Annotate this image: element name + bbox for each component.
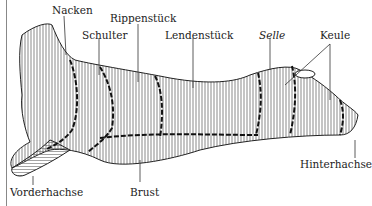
label-keule: Keule [320, 29, 350, 41]
label-selle: Selle [259, 29, 285, 41]
label-rippenstueck: Rippenstück [110, 12, 176, 24]
label-lendenstueck: Lendenstück [165, 29, 233, 41]
label-hinterhachse: Hinterhachse [300, 158, 372, 170]
label-brust: Brust [130, 186, 159, 198]
label-nacken: Nacken [52, 4, 93, 16]
label-vorderhachse: Vorderhachse [10, 186, 83, 198]
label-schulter: Schulter [82, 29, 127, 41]
